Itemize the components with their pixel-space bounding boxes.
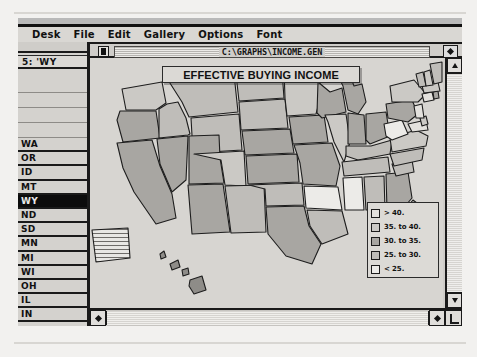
triangle-up-icon[interactable]	[447, 58, 462, 73]
menu-bar: Desk File Edit Gallery Options Font	[18, 24, 462, 42]
menu-item-font[interactable]: Font	[256, 27, 282, 42]
active-cell-indicator[interactable]: 5: 'WY	[18, 55, 87, 69]
list-item[interactable]: SD	[18, 223, 87, 237]
page-rule-top	[14, 12, 466, 14]
diamond-glyph	[94, 314, 101, 321]
triangle-up-glyph	[452, 63, 458, 68]
legend-item[interactable]: 30. to 35.	[371, 234, 438, 248]
photographed-page: Desk File Edit Gallery Options Font 5: '…	[0, 0, 477, 357]
state-NE	[242, 129, 294, 155]
state-OR	[117, 111, 160, 142]
state-PA	[386, 100, 418, 122]
list-item-label: WI	[18, 267, 35, 277]
list-item-label: MN	[18, 238, 38, 248]
state-AK	[92, 228, 130, 262]
list-item[interactable]: WA	[18, 138, 87, 152]
legend-item[interactable]: 35. to 40.	[371, 220, 438, 234]
list-item-label: IL	[18, 295, 31, 305]
state-WI	[317, 82, 346, 118]
state-SD	[239, 99, 288, 130]
list-item-label: MI	[18, 253, 34, 263]
list-blank-row[interactable]	[18, 123, 87, 138]
titlebar-fullsize-icon[interactable]	[443, 45, 458, 58]
chart-title-text: EFFECTIVE BUYING INCOME	[183, 69, 339, 81]
legend-swatch-icon	[371, 237, 380, 246]
legend-label: 25. to 30.	[384, 251, 421, 259]
state-HI	[160, 251, 206, 294]
page-rule-bottom	[14, 342, 466, 344]
legend-item[interactable]: > 40.	[371, 206, 438, 220]
menu-item-edit[interactable]: Edit	[108, 27, 131, 42]
diamond-left-icon[interactable]	[90, 310, 106, 326]
state-MS	[343, 177, 364, 210]
map-legend[interactable]: > 40. 35. to 40. 30. to 35. 25. to 30. <…	[367, 202, 439, 278]
data-list-panel: 5: 'WY WA OR ID MT WY ND SD MN MI WI OH …	[18, 42, 90, 326]
close-box-icon[interactable]	[98, 46, 109, 57]
horizontal-scroll-track[interactable]	[106, 311, 429, 325]
list-item[interactable]: ND	[18, 209, 87, 223]
horizontal-scrollbar[interactable]	[90, 308, 462, 326]
menu-item-gallery[interactable]: Gallery	[144, 27, 185, 42]
list-header-bar	[18, 42, 87, 53]
vertical-scroll-track[interactable]	[447, 73, 462, 293]
list-item-label: SD	[18, 224, 36, 234]
legend-item[interactable]: < 25.	[371, 262, 438, 276]
legend-label: < 25.	[384, 265, 404, 273]
window-title-bar[interactable]: C:\GRAPHS\INCOME.GEN	[90, 42, 462, 58]
list-item[interactable]: OR	[18, 152, 87, 166]
list-item-label: WA	[18, 139, 38, 149]
list-item[interactable]: IN	[18, 308, 87, 322]
list-blank-row[interactable]	[18, 108, 87, 123]
document-window: C:\GRAPHS\INCOME.GEN	[90, 42, 462, 326]
list-item-label: ID	[18, 167, 32, 177]
state-AZ	[188, 184, 230, 234]
list-blank-row[interactable]	[18, 71, 87, 93]
state-code-list: WA OR ID MT WY ND SD MN MI WI OH IL IN	[18, 138, 87, 326]
vertical-scrollbar[interactable]	[445, 58, 462, 308]
legend-item[interactable]: 25. to 30.	[371, 248, 438, 262]
list-item[interactable]: MI	[18, 252, 87, 266]
list-item-selected[interactable]: WY	[18, 195, 87, 209]
diamond-right-icon[interactable]	[429, 310, 445, 326]
legend-swatch-icon	[371, 251, 380, 260]
legend-label: 35. to 40.	[384, 223, 421, 231]
list-item[interactable]: MN	[18, 237, 87, 251]
menu-item-desk[interactable]: Desk	[32, 27, 61, 42]
list-item-label: OH	[18, 281, 37, 291]
state-IN	[348, 113, 366, 144]
list-item-label: OR	[18, 153, 36, 163]
state-NJ	[414, 104, 424, 118]
list-item[interactable]: ID	[18, 166, 87, 180]
legend-label: 30. to 35.	[384, 237, 421, 245]
diamond-glyph	[447, 48, 454, 55]
list-item-label: WY	[18, 196, 38, 206]
state-IA	[289, 115, 328, 144]
list-item[interactable]: OH	[18, 280, 87, 294]
legend-swatch-icon	[371, 209, 380, 218]
list-item-label: IN	[18, 309, 32, 319]
list-item-label: MT	[18, 182, 37, 192]
window-title-strip: C:\GRAPHS\INCOME.GEN	[114, 46, 430, 58]
state-TN	[342, 157, 390, 176]
triangle-down-icon[interactable]	[447, 293, 462, 308]
resize-corner-icon[interactable]	[445, 310, 462, 326]
state-AR	[304, 186, 342, 210]
list-blank-row[interactable]	[18, 93, 87, 108]
active-cell-value: 5: 'WY	[18, 57, 57, 67]
legend-swatch-icon	[371, 223, 380, 232]
list-item-label: ND	[18, 210, 37, 220]
legend-swatch-icon	[371, 265, 380, 274]
menu-item-options[interactable]: Options	[198, 27, 243, 42]
legend-label: > 40.	[384, 209, 404, 217]
window-title: C:\GRAPHS\INCOME.GEN	[219, 47, 325, 57]
chart-title-plate[interactable]: EFFECTIVE BUYING INCOME	[162, 66, 360, 83]
menu-item-file[interactable]: File	[74, 27, 95, 42]
state-WA	[122, 82, 166, 110]
state-KS	[246, 154, 299, 184]
list-item[interactable]: MT	[18, 181, 87, 195]
list-item[interactable]: WI	[18, 266, 87, 280]
application-screen: Desk File Edit Gallery Options Font 5: '…	[18, 18, 462, 326]
diamond-glyph	[433, 314, 440, 321]
triangle-down-glyph	[452, 298, 458, 303]
list-item[interactable]: IL	[18, 294, 87, 308]
